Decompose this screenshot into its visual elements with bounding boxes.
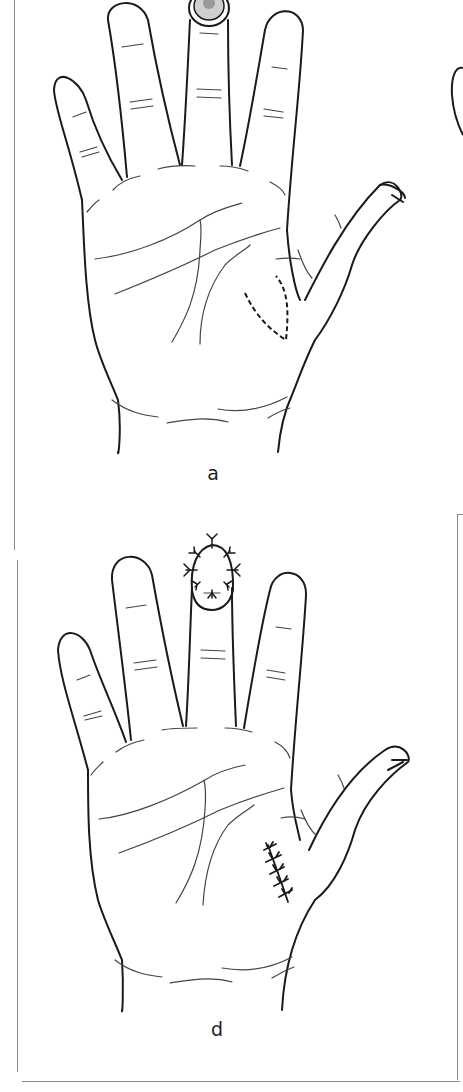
hand-illustration-d [0,530,463,1070]
panel-d: d [0,530,463,1070]
panel-label-a: a [193,462,233,484]
panel-label-d: d [197,1018,237,1040]
panel-a: a [0,0,463,510]
donor-site-outline [245,276,287,340]
panel-d-frame-bottom [22,1081,460,1082]
donor-site-sutures-icon [264,842,292,902]
hand-illustration-b-partial [452,68,463,135]
hand-illustration-a [0,0,463,510]
panel-e-frame-top [457,514,463,515]
fingertip-defect-icon [189,0,229,26]
